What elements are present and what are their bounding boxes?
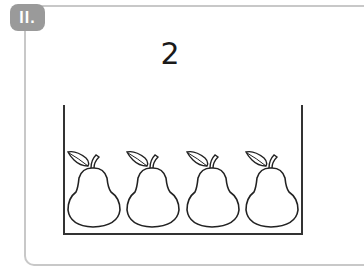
pear-row [66,150,300,232]
target-number: 2 [0,36,340,71]
pear-icon[interactable] [185,150,241,232]
pear-icon[interactable] [66,150,122,232]
section-badge: II. [10,4,45,31]
pear-icon[interactable] [125,150,181,232]
pear-icon[interactable] [244,150,300,232]
